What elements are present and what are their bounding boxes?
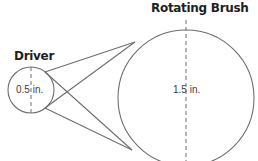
brush-diameter-label: 1.5 in. (173, 84, 200, 95)
driver-title: Driver (14, 49, 54, 63)
belt-line-lower (45, 108, 132, 150)
belt-drive-diagram (0, 0, 258, 161)
belt-line-upper (45, 42, 135, 72)
driver-diameter-label: 0.5 in. (16, 84, 43, 95)
brush-title: Rotating Brush (151, 1, 249, 15)
